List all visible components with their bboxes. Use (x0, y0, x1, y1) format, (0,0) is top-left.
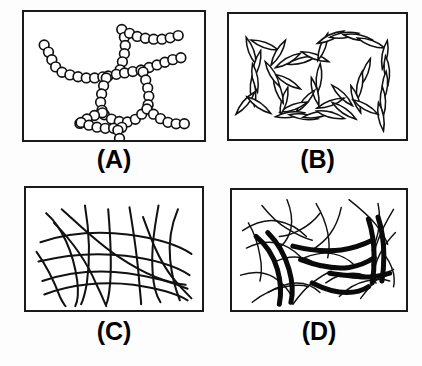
panel-d-diagram (232, 190, 406, 310)
panel-d-frame (230, 188, 408, 312)
figure-container: (A) (B) (C) (D) (0, 0, 422, 366)
panel-d-label: (D) (230, 318, 408, 344)
panel-d: (D) (0, 0, 422, 366)
